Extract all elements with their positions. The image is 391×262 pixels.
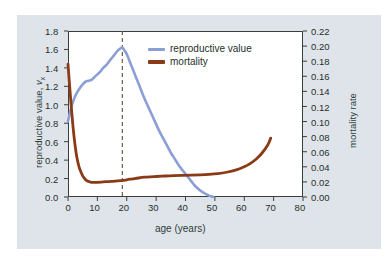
y-axis-label-right: mortality rate	[348, 93, 358, 148]
y-tick-label-right: 0.06	[311, 148, 330, 158]
y-tick-label-right: 0.14	[311, 87, 330, 97]
x-tick-label: 20	[119, 203, 130, 213]
y-tick-label-right: 0.00	[311, 193, 330, 203]
figure-container: 1.8 1.6 1.4 1.2 1.0 0.8 0.6 0.4 0.2 0.0 …	[0, 0, 391, 262]
y-tick-label-left: 0.8	[45, 119, 58, 129]
y-tick-label-left: 1.2	[45, 82, 58, 92]
y-tick-label-right: 0.16	[311, 72, 330, 82]
x-tick-label: 70	[265, 203, 276, 213]
y-tick-label-left: 0.2	[45, 175, 58, 185]
y-tick-label-left: 1.8	[45, 27, 58, 37]
y-tick-label-right: 0.18	[311, 57, 330, 67]
y-tick-label-right: 0.12	[311, 103, 330, 113]
y-tick-label-left: 1.6	[45, 45, 58, 55]
y-axis-label-left: reproductive value, vx	[34, 77, 47, 168]
y-tick-label-right: 0.04	[311, 163, 330, 173]
y-tick-label-right: 0.02	[311, 178, 330, 188]
y-tick-label-left: 0.0	[45, 193, 58, 203]
x-tick-label: 0	[66, 203, 71, 213]
y-tick-label-left: 0.6	[45, 138, 58, 148]
line-series-mortality	[68, 64, 271, 182]
y-tick-label-left: 1.4	[45, 64, 58, 74]
y-tick-label-right: 0.22	[311, 27, 330, 37]
x-tick-label: 30	[148, 203, 159, 213]
y-tick-label-left: 0.4	[45, 156, 58, 166]
y-tick-label-right: 0.10	[311, 118, 330, 128]
y-tick-label-right: 0.08	[311, 133, 330, 143]
x-tick-label: 50	[207, 203, 218, 213]
x-axis-label: age (years)	[155, 224, 206, 234]
x-tick-label: 40	[177, 203, 188, 213]
y-tick-label-right: 0.20	[311, 42, 330, 52]
y-tick-label-left: 1.0	[45, 101, 58, 111]
plot-svg	[68, 31, 303, 197]
x-tick-label: 80	[295, 203, 306, 213]
x-tick-label: 10	[89, 203, 100, 213]
x-tick-label: 60	[236, 203, 247, 213]
